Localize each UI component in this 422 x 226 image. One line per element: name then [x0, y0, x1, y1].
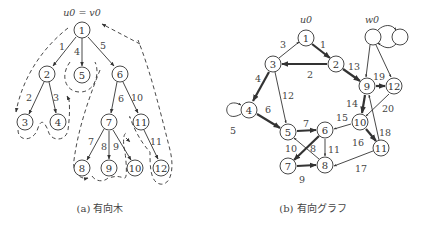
svg-text:5: 5 — [230, 125, 236, 136]
svg-text:9: 9 — [106, 163, 112, 174]
graph-caption: (b) 有向グラフ — [279, 202, 346, 214]
graph-node-7: 7 — [280, 158, 296, 174]
svg-text:5: 5 — [79, 70, 85, 81]
svg-text:4: 4 — [55, 117, 61, 128]
svg-text:11: 11 — [150, 136, 162, 147]
graph-node-2: 2 — [328, 56, 344, 72]
graph-node-3: 3 — [265, 56, 281, 72]
svg-text:3: 3 — [280, 39, 286, 50]
svg-text:2: 2 — [44, 69, 50, 80]
graph-node-6: 6 — [317, 122, 333, 138]
svg-text:3: 3 — [22, 117, 28, 128]
svg-text:15: 15 — [336, 112, 348, 123]
svg-text:17: 17 — [355, 163, 367, 174]
svg-text:10: 10 — [285, 143, 297, 154]
tree-node-12: 12 — [153, 160, 169, 176]
svg-text:8: 8 — [322, 160, 328, 171]
directed-graph: u0 w0 — [227, 14, 408, 215]
tree-node-1: 1 — [74, 22, 90, 38]
tree-nodes: 1 2 5 6 3 4 7 11 8 9 10 12 — [17, 22, 169, 176]
svg-text:11: 11 — [375, 143, 388, 154]
graph-node-1: 1 — [298, 30, 314, 46]
svg-text:6: 6 — [322, 125, 328, 136]
tree-edge-labels: 1 4 5 2 3 6 10 7 8 9 11 — [26, 40, 162, 152]
figure-canvas: u0 = v0 1 — [0, 0, 422, 226]
svg-text:7: 7 — [88, 136, 94, 147]
graph-node-9: 9 — [359, 78, 375, 94]
tree-node-4: 4 — [50, 114, 66, 130]
svg-text:18: 18 — [379, 127, 391, 138]
svg-text:11: 11 — [328, 144, 340, 155]
svg-text:9: 9 — [299, 174, 305, 185]
tree-node-10: 10 — [127, 160, 143, 176]
svg-text:12: 12 — [155, 163, 168, 174]
svg-text:16: 16 — [352, 137, 364, 148]
svg-text:8: 8 — [101, 141, 107, 152]
svg-text:7: 7 — [106, 117, 112, 128]
svg-text:10: 10 — [131, 92, 143, 103]
svg-text:10: 10 — [129, 163, 142, 174]
svg-text:9: 9 — [113, 141, 119, 152]
svg-text:11: 11 — [135, 117, 148, 128]
svg-text:20: 20 — [382, 103, 394, 114]
graph-node-8: 8 — [317, 157, 333, 173]
graph-node-11: 11 — [373, 140, 389, 156]
svg-text:5: 5 — [100, 40, 106, 51]
svg-text:3: 3 — [270, 59, 276, 70]
svg-text:1: 1 — [79, 25, 85, 36]
svg-text:4: 4 — [246, 105, 252, 116]
svg-text:6: 6 — [117, 69, 123, 80]
svg-text:19: 19 — [373, 71, 385, 82]
graph-node-4: 4 — [241, 102, 257, 118]
tree-node-8: 8 — [74, 160, 90, 176]
tree-node-11: 11 — [133, 114, 149, 130]
svg-text:10: 10 — [354, 117, 367, 128]
svg-text:1: 1 — [303, 33, 309, 44]
svg-text:8: 8 — [79, 163, 85, 174]
tree-node-5: 5 — [74, 67, 90, 83]
svg-text:4: 4 — [74, 46, 80, 57]
svg-text:6: 6 — [118, 93, 124, 104]
svg-text:14: 14 — [346, 98, 358, 109]
svg-text:7: 7 — [285, 161, 291, 172]
svg-text:13: 13 — [348, 61, 360, 72]
svg-text:12: 12 — [388, 81, 401, 92]
svg-text:9: 9 — [364, 81, 370, 92]
graph-node-10: 10 — [352, 114, 368, 130]
tree-root-label: u0 = v0 — [63, 7, 101, 18]
svg-text:4: 4 — [255, 73, 261, 84]
w0-component — [365, 26, 408, 78]
svg-text:1: 1 — [320, 39, 326, 50]
svg-text:8: 8 — [310, 143, 316, 154]
tree-node-3: 3 — [17, 114, 33, 130]
svg-text:2: 2 — [26, 92, 32, 103]
tree-caption: (a) 有向木 — [77, 202, 124, 214]
directed-tree: u0 = v0 1 — [16, 7, 172, 215]
graph-u0-label: u0 — [300, 14, 312, 25]
tree-node-6: 6 — [112, 66, 128, 82]
svg-text:5: 5 — [285, 127, 291, 138]
tree-node-2: 2 — [39, 66, 55, 82]
svg-text:2: 2 — [333, 59, 339, 70]
dfs-traversal-paths — [16, 24, 172, 184]
svg-text:6: 6 — [265, 104, 271, 115]
svg-text:1: 1 — [59, 41, 65, 52]
svg-text:2: 2 — [307, 69, 313, 80]
graph-node-5: 5 — [280, 124, 296, 140]
svg-text:7: 7 — [303, 118, 309, 129]
graph-node-12: 12 — [386, 78, 402, 94]
svg-text:12: 12 — [282, 90, 294, 101]
tree-node-7: 7 — [101, 114, 117, 130]
graph-w0-label: w0 — [365, 14, 379, 25]
svg-text:3: 3 — [53, 92, 59, 103]
tree-node-9: 9 — [101, 160, 117, 176]
